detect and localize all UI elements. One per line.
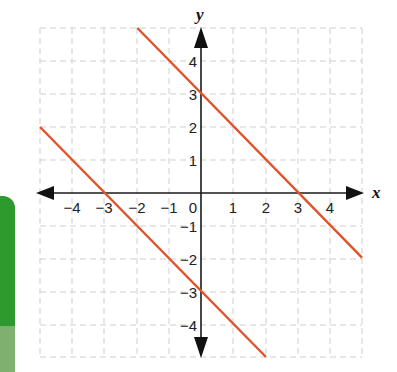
svg-text:0: 0: [189, 199, 197, 216]
svg-text:−1: −1: [180, 218, 197, 235]
svg-text:3: 3: [294, 199, 302, 216]
x-tick-labels: −4 −3 −2 −1 0 1 2 3 4: [63, 199, 334, 216]
svg-text:1: 1: [189, 152, 197, 169]
svg-text:−3: −3: [180, 284, 197, 301]
svg-text:1: 1: [229, 199, 237, 216]
svg-text:−4: −4: [180, 317, 197, 334]
svg-text:4: 4: [326, 199, 334, 216]
y-axis-label: y: [194, 5, 204, 24]
svg-text:2: 2: [262, 199, 270, 216]
x-axis-label: x: [371, 183, 381, 202]
x-axis-right-arrow-icon: [346, 186, 364, 200]
y-axis-up-arrow-icon: [194, 27, 208, 48]
svg-text:−2: −2: [128, 199, 145, 216]
svg-text:−2: −2: [180, 251, 197, 268]
svg-text:3: 3: [189, 86, 197, 103]
svg-text:2: 2: [189, 119, 197, 136]
svg-text:−3: −3: [95, 199, 112, 216]
y-axis-down-arrow-icon: [194, 337, 208, 358]
x-axis: [36, 186, 364, 200]
svg-text:−4: −4: [63, 199, 80, 216]
line-y-eq-neg-x-minus-3: [40, 127, 266, 357]
line-y-eq-neg-x-plus-3: [137, 28, 362, 258]
x-axis-left-arrow-icon: [36, 186, 54, 200]
coordinate-plane: y x −4 −3 −2 −1 0 1 2 3 4 4 3 2 1 −1 −2 …: [0, 0, 397, 372]
svg-text:4: 4: [189, 53, 197, 70]
svg-text:−1: −1: [160, 199, 177, 216]
